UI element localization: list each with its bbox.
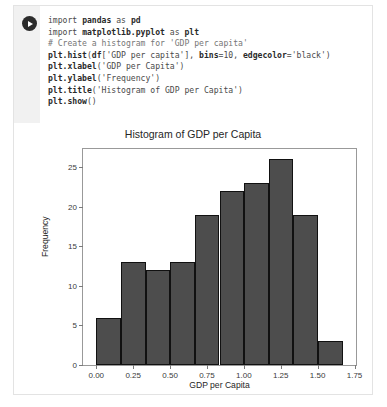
x-axis-tick-label: 0.00 xyxy=(88,371,104,380)
code-token-keyword: bins xyxy=(199,50,219,60)
histogram-bar xyxy=(96,318,121,365)
histogram-bar xyxy=(244,183,269,365)
y-axis-tick xyxy=(79,207,83,208)
code-comment: # Create a histogram for 'GDP per capita… xyxy=(48,38,248,48)
y-axis-tick-label: 20 xyxy=(68,202,77,211)
code-line: plt.hist(df['GDP per capita'], bins=10, … xyxy=(48,50,368,62)
code-token-keyword: edgecolor xyxy=(243,50,287,60)
code-line: import matplotlib.pyplot as plt xyxy=(48,27,368,39)
x-axis-tick-label: 0.25 xyxy=(125,371,141,380)
y-axis-tick-label: 25 xyxy=(68,163,77,172)
code-token-keyword: pandas xyxy=(82,15,111,25)
histogram-bar xyxy=(318,341,343,365)
code-token: =10, xyxy=(219,50,243,60)
code-token-keyword: matplotlib.pyplot xyxy=(82,27,165,37)
x-axis-tick xyxy=(96,365,97,369)
code-token: () xyxy=(87,96,97,106)
code-token: ='black') xyxy=(287,50,331,60)
x-axis-tick xyxy=(281,365,282,369)
chart-title: Histogram of GDP per Capita xyxy=(14,128,372,140)
code-token: import xyxy=(48,15,82,25)
code-token: import xyxy=(48,27,82,37)
y-axis-label: Frequency xyxy=(40,216,50,257)
x-axis-tick-label: 0.50 xyxy=(162,371,178,380)
histogram-bar xyxy=(146,270,171,365)
x-axis-tick-label: 1.25 xyxy=(273,371,289,380)
code-token: ['GDP per capita'], xyxy=(102,50,199,60)
y-axis-tick xyxy=(79,167,83,168)
play-icon xyxy=(28,21,33,27)
code-line: import pandas as pd xyxy=(48,15,368,27)
histogram-bar xyxy=(269,159,294,365)
histogram-bar xyxy=(170,262,195,365)
x-axis-tick xyxy=(133,365,134,369)
y-axis-tick xyxy=(79,365,83,366)
histogram-bar xyxy=(293,215,318,365)
x-axis-tick-label: 1.50 xyxy=(310,371,326,380)
code-editor-area[interactable]: import pandas as pdimport matplotlib.pyp… xyxy=(14,6,372,123)
code-token-keyword: pd xyxy=(131,15,141,25)
histogram-bar xyxy=(195,215,220,365)
x-axis-tick xyxy=(318,365,319,369)
code-token: ('Histogram of GDP per Capita') xyxy=(92,85,243,95)
y-axis-tick-label: 15 xyxy=(68,242,77,251)
x-axis-tick-label: 0.75 xyxy=(199,371,215,380)
code-token-keyword: plt.title xyxy=(48,85,92,95)
plot-axes: 05101520250.000.250.500.751.001.251.501.… xyxy=(82,148,357,366)
code-line: plt.title('Histogram of GDP per Capita') xyxy=(48,85,368,97)
source-code[interactable]: import pandas as pdimport matplotlib.pyp… xyxy=(48,15,368,108)
code-token-keyword: plt.xlabel xyxy=(48,61,97,71)
x-axis-tick-label: 1.75 xyxy=(347,371,363,380)
histogram-bar xyxy=(121,262,146,365)
y-axis-tick-label: 5 xyxy=(73,321,77,330)
histogram-bar xyxy=(220,191,245,365)
x-axis-tick xyxy=(207,365,208,369)
code-line: plt.ylabel('Frequency') xyxy=(48,73,368,85)
code-token: ('Frequency') xyxy=(97,73,160,83)
y-axis-tick-label: 10 xyxy=(68,281,77,290)
code-token: as xyxy=(165,27,185,37)
code-line: plt.xlabel('GDP per Capita') xyxy=(48,61,368,73)
x-axis-tick xyxy=(244,365,245,369)
code-token-keyword: plt.show xyxy=(48,96,87,106)
y-axis-tick xyxy=(79,325,83,326)
matplotlib-figure: Histogram of GDP per Capita 05101520250.… xyxy=(14,123,372,394)
code-token-keyword: plt.hist xyxy=(48,50,87,60)
y-axis-tick xyxy=(79,246,83,247)
x-axis-tick xyxy=(170,365,171,369)
code-line: plt.show() xyxy=(48,96,368,108)
code-line: # Create a histogram for 'GDP per capita… xyxy=(48,38,368,50)
code-token: as xyxy=(111,15,131,25)
run-cell-button[interactable] xyxy=(22,16,37,31)
x-axis-tick xyxy=(355,365,356,369)
code-token-keyword: plt.ylabel xyxy=(48,73,97,83)
x-axis-label: GDP per Capita xyxy=(82,380,357,390)
notebook-cell: import pandas as pdimport matplotlib.pyp… xyxy=(13,5,373,395)
code-token-keyword: plt xyxy=(184,27,199,37)
plot-area xyxy=(83,149,356,365)
y-axis-tick xyxy=(79,286,83,287)
code-token-keyword: df xyxy=(92,50,102,60)
x-axis-tick-label: 1.00 xyxy=(236,371,252,380)
code-token: ('GDP per Capita') xyxy=(97,61,185,71)
y-axis-tick-label: 0 xyxy=(73,361,77,370)
